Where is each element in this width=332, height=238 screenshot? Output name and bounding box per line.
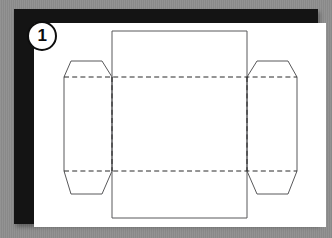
left-side-flap [64,61,112,194]
figure-frame [14,9,318,224]
right-side-flap [247,61,297,194]
dieline-diagram [34,23,326,227]
top-panel [112,31,247,77]
figure-root: 1 [0,0,332,238]
step-number-badge: 1 [27,21,57,51]
step-number-label: 1 [38,27,47,45]
figure-canvas [34,23,326,227]
bottom-panel [112,171,247,218]
